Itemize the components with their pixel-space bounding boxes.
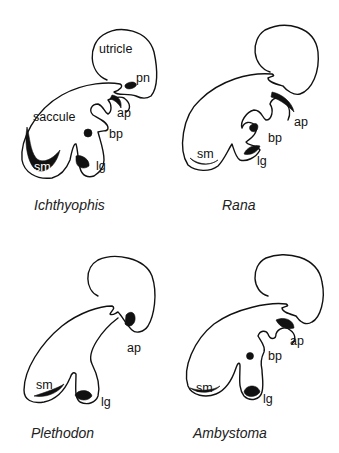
rana-ap-label: ap [294,116,308,129]
plethodon-lg-label: lg [101,396,111,409]
ambystoma-bp-label: bp [268,350,282,363]
ambystoma-lg-organ [244,386,260,397]
plethodon-ap-label: ap [127,342,141,355]
rana-bp-organ [250,123,258,131]
ambystoma-lg-label: lg [263,393,273,406]
ichthyophis-ap-label: ap [117,107,131,120]
ichthyophis-sm-label: sm [34,161,51,174]
ichthyophis-lg-label: lg [96,160,106,173]
rana-sm-label: sm [197,148,214,161]
ichthyophis-ear-outline [22,30,157,179]
ambystoma-ap-label: ap [290,335,304,348]
rana-lg-label: lg [257,155,267,168]
plethodon-ap-organ [125,312,135,326]
plethodon-caption: Plethodon [31,426,94,440]
rana-ap-organ [271,92,294,112]
ichthyophis-pn-organ [125,82,136,89]
rana-bp-label: bp [268,132,282,145]
ichthyophis-caption: Ichthyophis [34,198,105,212]
ichthyophis-pn-label: pn [136,72,150,85]
ichthyophis-saccule-label: saccule [33,111,75,124]
plethodon-sm-label: sm [36,379,53,392]
ichthyophis-utricle-label: utricle [99,43,132,56]
rana-caption: Rana [222,198,255,212]
ichthyophis-bp-label: bp [109,128,123,141]
ambystoma-ear-outline [186,255,323,400]
ichthyophis-lg-organ [76,156,89,168]
ambystoma-sm-label: sm [196,382,213,395]
ambystoma-caption: Ambystoma [193,426,267,440]
ambystoma-ap-organ [276,318,294,328]
ambystoma-ear [186,255,323,400]
ambystoma-bp-organ [247,353,254,360]
ichthyophis-bp-organ [84,129,92,137]
ichthyophis-ear [22,30,157,179]
